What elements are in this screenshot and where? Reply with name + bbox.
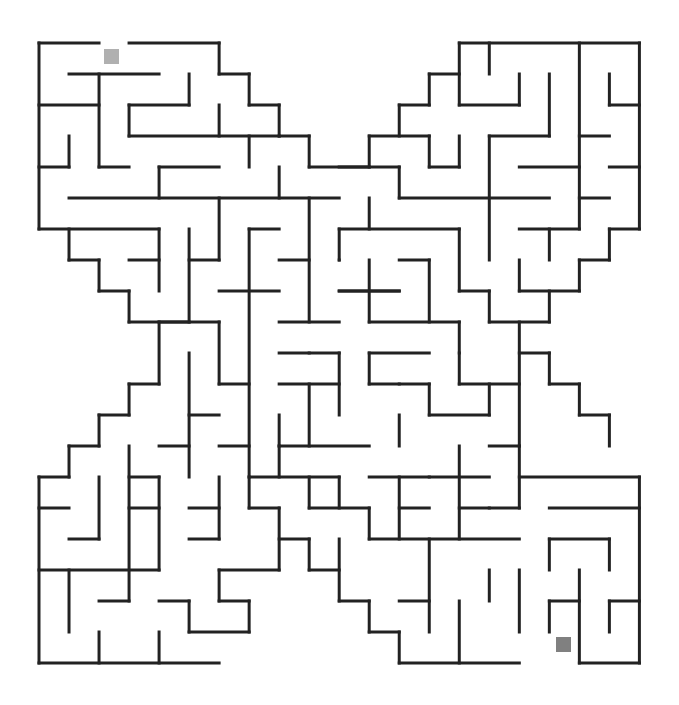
maze-board (0, 0, 679, 705)
maze-walls (39, 43, 639, 663)
start-marker (104, 49, 119, 64)
end-marker (556, 637, 571, 652)
